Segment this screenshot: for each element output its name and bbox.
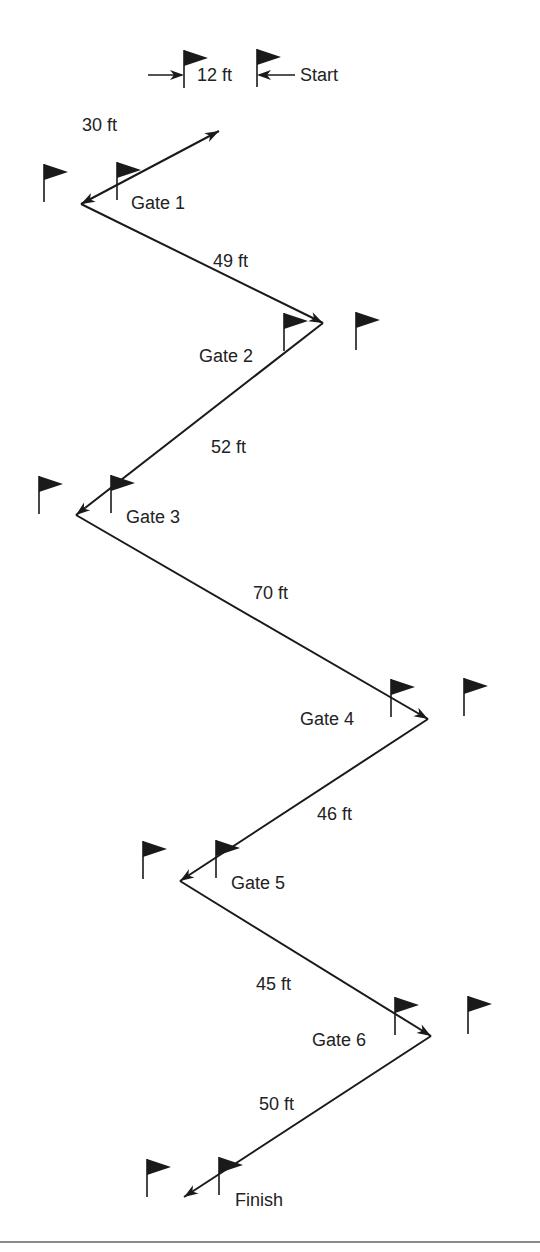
start-gate-width-label: 12 ft — [197, 66, 232, 84]
gate-3-label: Gate 3 — [126, 508, 180, 526]
segment-label-6: 45 ft — [256, 975, 291, 993]
gate-5-flag-icon-1 — [143, 841, 167, 857]
segment-line-4 — [76, 515, 428, 719]
segment-label-7: 50 ft — [259, 1095, 294, 1113]
gate-4-flag-icon-2 — [464, 678, 488, 694]
gate-6-flag-icon-1 — [395, 997, 419, 1013]
arrowhead-icon — [413, 708, 428, 719]
start-flag-icon-1 — [184, 50, 208, 66]
gate-3-flag-icon-1 — [39, 476, 63, 492]
finish-label: Finish — [235, 1191, 283, 1209]
gate-1-label: Gate 1 — [131, 194, 185, 212]
gate-7-flag-icon-2 — [219, 1157, 243, 1173]
slalom-course-diagram: 12 ft Start 30 ft 49 ft 52 ft 70 ft 46 f… — [0, 0, 540, 1252]
arrowhead-icon — [76, 502, 90, 515]
arrowhead-icon — [180, 869, 194, 881]
start-flag-icon-2 — [257, 49, 281, 65]
gate-5-label: Gate 5 — [231, 874, 285, 892]
segment-line-7 — [184, 1036, 431, 1197]
gate-2-label: Gate 2 — [199, 347, 253, 365]
arrowhead-icon — [184, 1185, 198, 1197]
gate-4-flag-icon-1 — [391, 679, 415, 695]
segment-label-4: 70 ft — [253, 584, 288, 602]
segment-line-2 — [81, 204, 323, 323]
segment-line-6 — [180, 881, 431, 1036]
segment-label-3: 52 ft — [211, 438, 246, 456]
gate-2-flag-icon-1 — [284, 313, 308, 329]
gate-1-flag-icon-2 — [117, 162, 141, 178]
gate-2-flag-icon-2 — [356, 312, 380, 328]
bottom-divider — [0, 1241, 540, 1243]
arrowhead-icon — [204, 131, 219, 142]
gate-5-flag-icon-2 — [216, 840, 240, 856]
gate-6-flag-icon-2 — [468, 996, 492, 1012]
start-label: Start — [300, 66, 338, 84]
segment-label-1: 30 ft — [82, 116, 117, 134]
course-drawing — [0, 0, 540, 1252]
arrowhead-icon — [81, 193, 96, 204]
gate-6-label: Gate 6 — [312, 1031, 366, 1049]
segment-label-5: 46 ft — [317, 805, 352, 823]
segment-line-5 — [180, 719, 428, 881]
gate-1-flag-icon-1 — [44, 164, 68, 180]
gate-7-flag-icon-1 — [147, 1159, 171, 1175]
arrowhead-icon — [416, 1024, 431, 1036]
segment-label-2: 49 ft — [213, 252, 248, 270]
gate-4-label: Gate 4 — [300, 710, 354, 728]
